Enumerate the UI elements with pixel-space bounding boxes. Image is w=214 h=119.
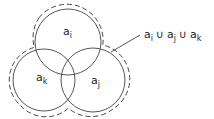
label-ai: ai xyxy=(63,25,72,40)
set-labels: ai ak aj xyxy=(36,25,100,89)
union-outline xyxy=(9,4,130,117)
leader-line xyxy=(111,35,140,52)
label-aj: aj xyxy=(91,74,100,89)
venn-diagram: ai ak aj ai∪aj∪ak xyxy=(0,0,214,119)
label-ak: ak xyxy=(36,71,48,86)
circle-ai xyxy=(35,9,101,75)
union-label: ai∪aj∪ak xyxy=(144,28,202,43)
